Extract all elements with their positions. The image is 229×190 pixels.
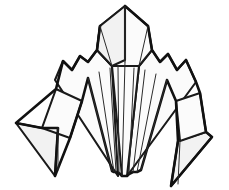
origami-figure-canvas [0,0,229,190]
origami-figure-svg [0,0,229,190]
